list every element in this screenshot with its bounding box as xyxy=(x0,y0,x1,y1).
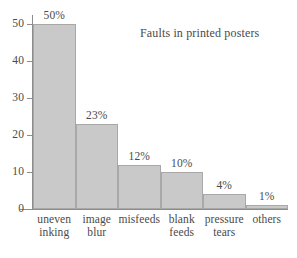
plot-area: 01020304050 50%23%12%10%4%1% uneven inki… xyxy=(0,0,296,258)
y-axis-tick-label: 40 xyxy=(0,55,24,66)
bar-value-label: 10% xyxy=(151,158,214,169)
x-axis-line xyxy=(20,209,288,210)
chart-title: Faults in printed posters xyxy=(140,26,259,40)
x-axis-category-label: others xyxy=(238,213,297,226)
bar xyxy=(76,124,119,209)
y-axis-tick-label: 30 xyxy=(0,92,24,103)
bar-value-label: 4% xyxy=(193,180,256,191)
y-axis-tick-label: 0 xyxy=(0,203,24,214)
y-axis-tick xyxy=(27,209,33,210)
bar-value-label: 50% xyxy=(23,10,86,21)
y-axis-tick-label: 50 xyxy=(0,18,24,29)
bar xyxy=(118,165,161,209)
bar-chart: 01020304050 50%23%12%10%4%1% uneven inki… xyxy=(0,0,296,258)
y-axis-tick-label: 20 xyxy=(0,129,24,140)
y-axis-tick-label: 10 xyxy=(0,166,24,177)
bar xyxy=(246,205,289,209)
bar-value-label: 1% xyxy=(236,191,297,202)
bar-value-label: 23% xyxy=(66,110,129,121)
